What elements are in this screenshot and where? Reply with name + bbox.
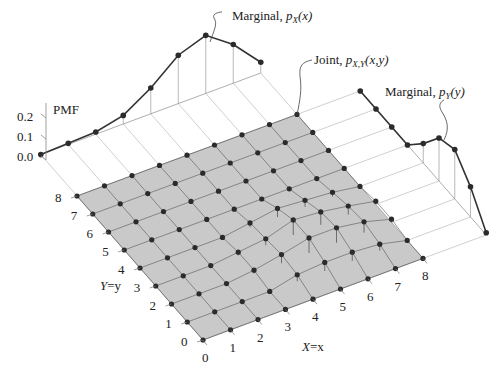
joint-point bbox=[118, 201, 123, 206]
z-tick-0: 0.0 bbox=[17, 149, 33, 164]
joint-point bbox=[224, 281, 229, 286]
joint-point bbox=[102, 183, 107, 188]
joint-point bbox=[267, 122, 272, 127]
svg-text:Marginal, pY(y): Marginal, pY(y) bbox=[385, 84, 465, 101]
surface-plane bbox=[77, 114, 423, 340]
joint-point bbox=[267, 289, 272, 294]
joint-point bbox=[239, 132, 244, 137]
joint-point bbox=[220, 235, 225, 240]
marginal-y-point bbox=[452, 147, 458, 153]
x-tick-label: 8 bbox=[422, 268, 429, 283]
joint-point bbox=[196, 291, 201, 296]
x-tick-label: 7 bbox=[395, 279, 402, 294]
y-tick-label: 4 bbox=[118, 262, 125, 277]
joint-point bbox=[243, 178, 248, 183]
annotation-joint: Joint, pX,Y(x,y) bbox=[297, 52, 389, 115]
marginal-x-curve bbox=[38, 33, 264, 158]
joint-pmf-3d-chart: 0.0 0.1 0.2 PMF 012345678 012345678 Y=y … bbox=[0, 0, 494, 374]
y-tick-label: 1 bbox=[165, 316, 172, 331]
joint-surface bbox=[77, 114, 423, 340]
marginal-y-point bbox=[405, 142, 411, 148]
marginal-y-point bbox=[436, 135, 442, 141]
marginal-x-point bbox=[38, 152, 44, 158]
joint-point bbox=[173, 181, 178, 186]
joint-point bbox=[377, 242, 382, 247]
marginal-x-point bbox=[258, 59, 264, 65]
joint-point bbox=[216, 189, 221, 194]
joint-point bbox=[212, 309, 217, 314]
joint-point bbox=[161, 209, 166, 214]
joint-point bbox=[283, 140, 288, 145]
marginal-x-point bbox=[120, 113, 126, 119]
joint-point bbox=[342, 166, 347, 171]
joint-point bbox=[322, 260, 327, 265]
marginal-x-point bbox=[93, 129, 99, 135]
joint-point bbox=[188, 199, 193, 204]
y-tick-label: 7 bbox=[71, 208, 78, 223]
marginal-y-point bbox=[373, 106, 379, 112]
marginal-x-point bbox=[230, 42, 236, 48]
joint-point bbox=[232, 207, 237, 212]
y-tick-label: 3 bbox=[134, 280, 141, 295]
marginal-y-point bbox=[483, 230, 489, 236]
marginal-x-point bbox=[203, 33, 209, 39]
annotation-marginal-y: Marginal, pY(y) bbox=[385, 84, 465, 140]
marginal-x-point bbox=[65, 141, 71, 147]
joint-point bbox=[184, 153, 189, 158]
joint-point bbox=[357, 184, 362, 189]
joint-point bbox=[212, 142, 217, 147]
z-tick-1: 0.1 bbox=[17, 129, 33, 144]
joint-point bbox=[346, 203, 351, 208]
joint-point bbox=[291, 217, 296, 222]
joint-point bbox=[318, 209, 323, 214]
joint-point bbox=[259, 196, 264, 201]
joint-point bbox=[200, 171, 205, 176]
y-axis-label: Y=y bbox=[100, 278, 122, 293]
marginal-y-point bbox=[389, 124, 395, 130]
joint-point bbox=[330, 190, 335, 195]
pmf-axis: 0.0 0.1 0.2 PMF bbox=[17, 102, 79, 164]
x-tick-label: 3 bbox=[285, 319, 292, 334]
joint-point bbox=[350, 250, 355, 255]
joint-point bbox=[251, 268, 256, 273]
joint-point bbox=[306, 235, 311, 240]
x-axis-label: X=x bbox=[301, 339, 324, 354]
y-tick-label: 6 bbox=[87, 226, 94, 241]
joint-point bbox=[310, 130, 315, 135]
joint-point bbox=[295, 272, 300, 277]
z-tick-2: 0.2 bbox=[17, 109, 33, 124]
x-tick-label: 2 bbox=[257, 330, 264, 345]
joint-point bbox=[236, 250, 241, 255]
joint-point bbox=[361, 219, 366, 224]
joint-point bbox=[240, 299, 245, 304]
joint-point bbox=[204, 217, 209, 222]
x-tick-label: 6 bbox=[367, 289, 374, 304]
joint-point bbox=[279, 252, 284, 257]
svg-text:Marginal, pX(x): Marginal, pX(x) bbox=[232, 8, 312, 25]
marginal-x-point bbox=[175, 52, 181, 58]
joint-point bbox=[287, 186, 292, 191]
joint-point bbox=[157, 163, 162, 168]
joint-point bbox=[177, 227, 182, 232]
joint-point bbox=[208, 263, 213, 268]
joint-point bbox=[405, 238, 410, 243]
joint-point bbox=[129, 173, 134, 178]
x-tick-label: 1 bbox=[230, 340, 237, 355]
joint-point bbox=[165, 255, 170, 260]
joint-point bbox=[334, 225, 339, 230]
joint-point bbox=[192, 245, 197, 250]
joint-point bbox=[247, 220, 252, 225]
joint-point bbox=[302, 198, 307, 203]
y-tick-label: 5 bbox=[102, 244, 109, 259]
x-tick-label: 0 bbox=[202, 350, 209, 365]
joint-point bbox=[263, 236, 268, 241]
x-tick-label: 5 bbox=[340, 299, 347, 314]
joint-point bbox=[326, 148, 331, 153]
svg-text:Joint, pX,Y(x,y): Joint, pX,Y(x,y) bbox=[314, 52, 389, 69]
y-tick-label: 0 bbox=[181, 334, 188, 349]
joint-point bbox=[373, 199, 378, 204]
marginal-x-point bbox=[148, 85, 154, 91]
joint-point bbox=[149, 237, 154, 242]
joint-point bbox=[181, 273, 186, 278]
marginal-y-point bbox=[468, 184, 474, 190]
